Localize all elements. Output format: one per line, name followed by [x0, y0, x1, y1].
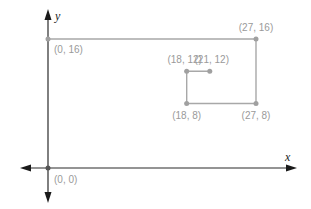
origin-point: [46, 166, 51, 171]
point-27-8: [254, 101, 259, 106]
point-label-27-8: (27, 8): [242, 110, 271, 121]
point-27-16: [254, 37, 259, 42]
point-18-12: [184, 69, 189, 74]
coordinate-plane: x y (0, 0) (0, 16)(27, 16)(27, 8)(18, 8)…: [0, 0, 311, 209]
point-0-16: [46, 37, 51, 42]
y-axis-label: y: [54, 9, 61, 23]
points-layer: (0, 16)(27, 16)(27, 8)(18, 8)(18, 12)(21…: [46, 22, 274, 121]
y-axis-up-arrow-icon: [45, 9, 52, 20]
x-axis-right-arrow-icon: [286, 165, 297, 172]
y-axis-down-arrow-icon: [45, 192, 52, 203]
x-axis-left-arrow-icon: [20, 165, 31, 172]
x-axis: x: [20, 150, 297, 172]
x-axis-label: x: [284, 150, 291, 164]
point-label-21-12: (21, 12): [195, 54, 229, 65]
origin-label: (0, 0): [54, 174, 77, 185]
point-label-27-16: (27, 16): [239, 22, 273, 33]
point-label-0-16: (0, 16): [54, 44, 83, 55]
point-18-8: [184, 101, 189, 106]
point-label-18-8: (18, 8): [172, 110, 201, 121]
point-21-12: [207, 69, 212, 74]
